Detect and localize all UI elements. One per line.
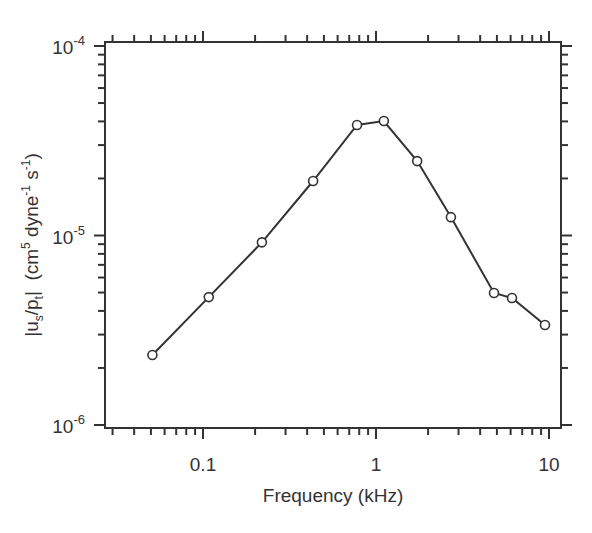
open-circle-marker (309, 176, 318, 185)
x-tick-label: 0.1 (190, 454, 216, 475)
open-circle-marker (379, 116, 388, 125)
y-tick-label: 10-4 (52, 33, 85, 58)
data-series-line (152, 121, 545, 355)
y-tick-label: 10-5 (52, 223, 85, 248)
data-markers (148, 116, 550, 359)
open-circle-marker (446, 213, 455, 222)
y-axis-title: |us/pt| (cm5 dyne-1 s-1) (19, 153, 46, 337)
open-circle-marker (148, 351, 157, 360)
open-circle-marker (204, 293, 213, 302)
x-axis-title: Frequency (kHz) (263, 485, 403, 506)
x-tick-label: 1 (371, 454, 382, 475)
open-circle-marker (413, 157, 422, 166)
axis-ticks (94, 31, 572, 439)
open-circle-marker (490, 289, 499, 298)
x-tick-labels: 0.1110 (190, 454, 560, 475)
open-circle-marker (540, 321, 549, 330)
y-tick-labels: 10-610-510-4 (52, 33, 85, 437)
open-circle-marker (257, 238, 266, 247)
log-log-frequency-chart: 0.1110 10-610-510-4 Frequency (kHz) |us/… (0, 0, 592, 533)
y-tick-label: 10-6 (52, 412, 85, 437)
open-circle-marker (507, 293, 516, 302)
open-circle-marker (353, 120, 362, 129)
x-tick-label: 10 (538, 454, 559, 475)
plot-frame (105, 42, 561, 428)
